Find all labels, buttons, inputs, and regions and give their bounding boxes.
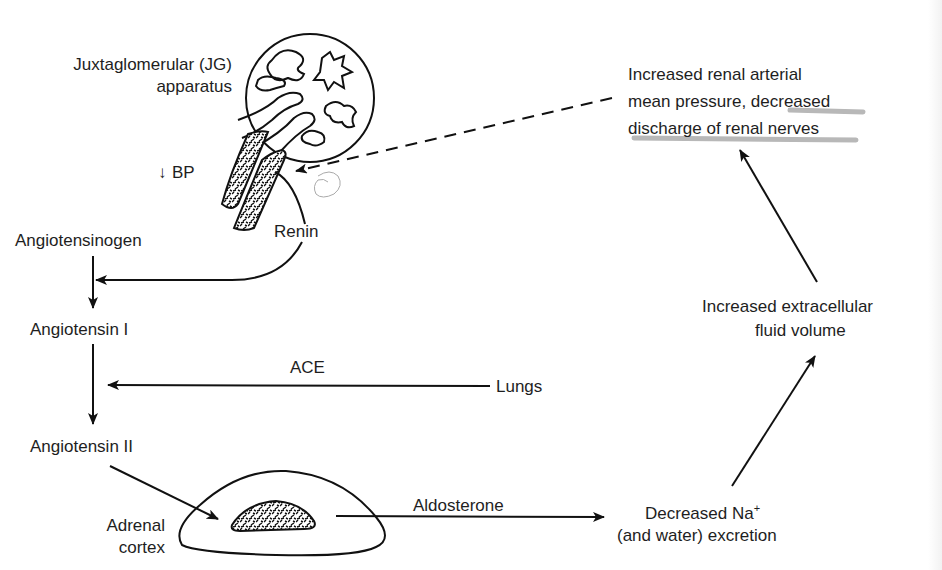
renin-release-curve [275,172,305,224]
pencil-mark [314,172,340,197]
dashed-feedback-arrow [296,98,612,171]
ecf-label-line1: Increased extracellular [702,297,873,316]
adrenal-label-line1: Adrenal [106,516,165,535]
lungs-label: Lungs [496,377,542,396]
bp-down-arrow-icon: ↓ [158,163,167,182]
jg-label-line1: Juxtaglomerular (JG) [73,55,232,74]
na-label-line2: (and water) excretion [617,526,777,545]
ace-label: ACE [290,358,325,377]
ecf-label-line2: fluid volume [755,321,846,340]
na-label-line1: Decreased Na+ [645,502,760,523]
raas-diagram: Juxtaglomerular (JG) apparatus ↓ BP Reni… [0,0,942,570]
adrenal-label-line2: cortex [119,538,166,557]
arrow-na-to-ecf [732,356,815,486]
page-edge [928,0,942,570]
bp-label: BP [172,163,195,182]
arrow-ace [108,385,490,386]
feedback-label-line1: Increased renal arterial [628,65,802,84]
renin-label: Renin [274,222,318,241]
feedback-label-line2: mean pressure, decreased [628,92,830,111]
highlight-mark [634,138,856,140]
angiotensin-ii-label: Angiotensin II [30,437,133,456]
adrenal-gland-icon [179,471,385,555]
feedback-label-line3: discharge of renal nerves [628,119,819,138]
angiotensin-i-label: Angiotensin I [30,320,128,339]
jg-cells-icon [222,131,286,230]
arrow-angiotensin-ii-to-adrenal [110,466,218,519]
angiotensinogen-label: Angiotensinogen [15,231,142,250]
aldosterone-label: Aldosterone [413,496,504,515]
arrow-ecf-to-pressure [740,150,817,282]
jg-label-line2: apparatus [156,77,232,96]
